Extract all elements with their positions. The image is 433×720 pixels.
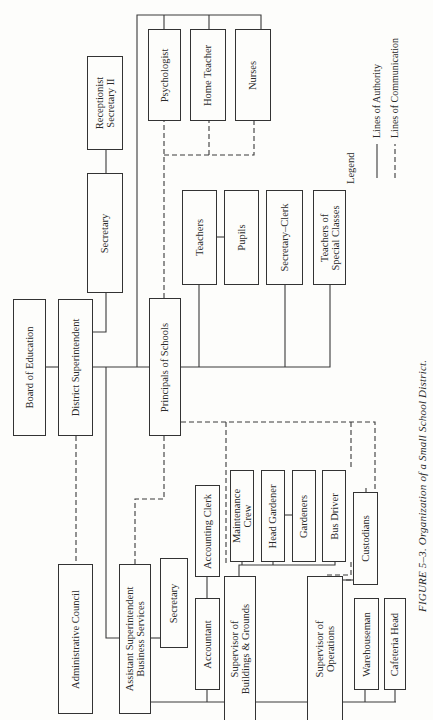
warehouseman-label: Warehouseman [361,612,372,676]
teachers-box: Teachers [182,190,217,285]
secretary-clerk-label: Secretary–Clerk [279,203,290,271]
custodians-label: Custodians [360,515,371,562]
receptionist-label: Receptionist Secretary II [94,77,116,130]
board-of-education-label: Board of Education [24,326,35,408]
administrative-council-label: Administrative Council [70,590,81,689]
supervisor-buildings-box: Supervisor of Buildings & Grounds [224,576,256,720]
supervisor-operations-label: Supervisor of Operations [314,620,336,677]
maintenance-crew-box: Maintenance Crew [230,470,254,562]
legend-communication-label: Lines of Communication [389,38,400,138]
legend-title: Legend [345,153,356,185]
nurses-label: Nurses [247,60,258,89]
head-gardener-box: Head Gardener [261,470,285,562]
supervisor-operations-box: Supervisor of Operations [307,576,343,720]
bus-driver-label: Bus Driver [329,493,340,539]
nurses-box: Nurses [235,29,271,121]
administrative-council-box: Administrative Council [58,564,93,714]
teachers-special-classes-label: Teachers of Special Classes [319,205,341,270]
secretary-top-box: Secretary [87,173,123,293]
principals-box: Principals of Schools [149,298,181,436]
home-teacher-box: Home Teacher [190,29,226,121]
gardeners-box: Gardeners [292,470,316,562]
accounting-clerk-label: Accounting Clerk [202,494,213,569]
cafeteria-head-box: Cafeteria Head [384,598,406,690]
teachers-special-classes-box: Teachers of Special Classes [313,190,346,285]
secretary-clerk-box: Secretary–Clerk [266,190,303,285]
gardeners-label: Gardeners [299,494,310,537]
assistant-superintendent-box: Assistant Superintendent Business Servic… [119,564,151,714]
cafeteria-head-label: Cafeteria Head [390,612,401,675]
district-superintendent-box: District Superintendent [58,299,93,436]
pupils-label: Pupils [236,224,247,250]
principals-label: Principals of Schools [160,322,171,411]
psychologist-label: Psychologist [159,48,170,102]
receptionist-box: Receptionist Secretary II [87,56,123,150]
accountant-box: Accountant [195,598,220,690]
accounting-clerk-box: Accounting Clerk [195,485,220,577]
secretary-business-box: Secretary [160,558,188,648]
home-teacher-label: Home Teacher [203,44,214,105]
pupils-box: Pupils [224,190,259,285]
head-gardener-label: Head Gardener [268,484,279,548]
district-superintendent-label: District Superintendent [70,319,81,417]
board-of-education-box: Board of Education [13,299,46,436]
assistant-superintendent-label: Assistant Superintendent Business Servic… [124,587,146,692]
warehouseman-box: Warehouseman [354,598,379,690]
custodians-box: Custodians [353,492,378,585]
org-chart: Board of Education District Superintende… [0,0,433,720]
legend-authority-label: Lines of Authority [371,64,382,138]
teachers-label: Teachers [194,219,205,256]
figure-caption: FIGURE 5–3. Organization of a Small Scho… [416,360,428,612]
secretary-business-label: Secretary [169,583,180,623]
maintenance-crew-label: Maintenance Crew [231,489,253,543]
secretary-top-label: Secretary [100,213,111,253]
legend-swatches [377,144,395,178]
supervisor-buildings-label: Supervisor of Buildings & Grounds [229,603,251,693]
psychologist-box: Psychologist [148,29,181,121]
bus-driver-box: Bus Driver [322,470,346,562]
accountant-label: Accountant [202,620,213,668]
